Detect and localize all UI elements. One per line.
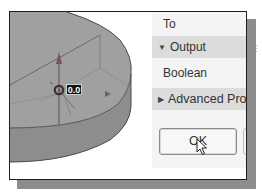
output-section-label: Output: [170, 40, 206, 54]
boolean-option[interactable]: Boolean: [152, 58, 247, 88]
advanced-properties-section-header[interactable]: ▶Advanced Pro: [152, 88, 247, 110]
to-label: To: [152, 12, 247, 36]
margin-mark: ⋮: [252, 46, 255, 60]
triangle-down-icon: ▼: [158, 37, 166, 59]
advanced-section-label: Advanced Pro: [168, 92, 247, 106]
output-section-header[interactable]: ▼Output: [152, 36, 247, 58]
properties-panel: To ▼Output Boolean ▶Advanced Pro OK: [152, 12, 247, 168]
dimension-value: 0.0: [68, 85, 81, 95]
mouse-pointer-icon: [196, 138, 208, 156]
cancel-button-partial[interactable]: [243, 128, 247, 155]
triangle-right-icon: ▶: [158, 89, 164, 110]
3d-viewport[interactable]: 0.0: [10, 12, 152, 179]
screenshot-frame: 0.0 To ▼Output Boolean ▶Advanced Pro OK: [9, 11, 247, 180]
